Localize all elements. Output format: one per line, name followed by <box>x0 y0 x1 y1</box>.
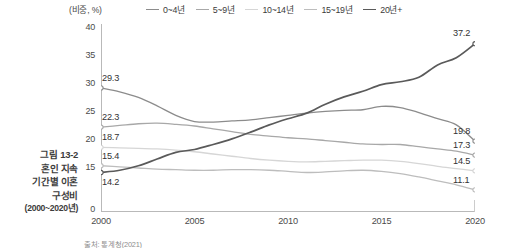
x-tick-label: 2015 <box>372 216 392 226</box>
line-chart-svg <box>101 24 475 212</box>
legend-label: 0~4년 <box>163 3 185 16</box>
y-tick-label: 15 <box>73 162 95 172</box>
legend-item-20년+[interactable]: 20년+ <box>363 3 402 16</box>
legend-line-icon <box>196 9 209 10</box>
y-tick-label: 0 <box>73 204 95 214</box>
figure-caption: 그림 13-2 혼인 지속 기간별 이혼 구성비 (2000~2020년) <box>0 148 78 216</box>
data-point-marker[interactable] <box>101 145 103 149</box>
figure-container: 그림 13-2 혼인 지속 기간별 이혼 구성비 (2000~2020년) (비… <box>0 0 511 248</box>
chart-legend: 0~4년5~9년10~14년15~19년20년+ <box>146 3 402 16</box>
data-point-marker[interactable] <box>101 170 103 174</box>
source-note: 출처: 통계청(2021) <box>84 238 142 248</box>
data-point-marker[interactable] <box>473 139 475 143</box>
legend-label: 5~9년 <box>213 3 235 16</box>
plot-area <box>101 24 475 212</box>
series-line-15~19년[interactable] <box>101 166 475 190</box>
caption-line-0: 그림 13-2 <box>0 148 78 162</box>
y-tick-label: 35 <box>73 50 95 60</box>
end-value-label-10~14년: 14.5 <box>453 156 470 166</box>
start-value-label-10~14년: 18.7 <box>102 132 119 142</box>
data-point-marker[interactable] <box>101 125 103 129</box>
legend-line-icon <box>146 9 159 10</box>
y-tick-label: 25 <box>73 106 95 116</box>
legend-label: 20년+ <box>380 3 402 16</box>
data-point-marker[interactable] <box>473 153 475 157</box>
start-value-label-20년+: 14.2 <box>102 177 119 187</box>
legend-item-5~9년[interactable]: 5~9년 <box>196 3 235 16</box>
start-value-label-5~9년: 22.3 <box>102 112 119 122</box>
legend-line-icon <box>245 9 258 10</box>
caption-period: (2000~2020년) <box>0 202 78 216</box>
data-point-marker[interactable] <box>101 86 103 90</box>
caption-line-1: 혼인 지속 <box>0 162 78 176</box>
legend-label: 15~19년 <box>321 3 352 16</box>
legend-label: 10~14년 <box>262 3 293 16</box>
y-axis-unit-label: (비중, %) <box>69 3 102 15</box>
data-point-marker[interactable] <box>473 169 475 173</box>
caption-line-3: 구성비 <box>0 189 78 203</box>
series-line-20년+[interactable] <box>101 44 475 173</box>
caption-line-2: 기간별 이혼 <box>0 175 78 189</box>
data-point-marker[interactable] <box>473 42 475 46</box>
end-value-label-15~19년: 11.1 <box>453 175 469 185</box>
legend-item-0~4년[interactable]: 0~4년 <box>146 3 185 16</box>
start-value-label-0~4년: 29.3 <box>102 73 119 83</box>
legend-item-15~19년[interactable]: 15~19년 <box>304 3 352 16</box>
end-value-label-0~4년: 19.8 <box>453 126 470 136</box>
start-value-label-15~19년: 15.4 <box>102 151 119 161</box>
series-line-5~9년[interactable] <box>101 123 475 155</box>
x-tick-label: 2005 <box>185 216 205 226</box>
y-tick-label: 40 <box>73 22 95 32</box>
legend-line-icon <box>363 9 376 10</box>
x-tick-label: 2020 <box>465 216 485 226</box>
end-value-label-5~9년: 17.3 <box>453 140 470 150</box>
data-point-marker[interactable] <box>101 164 103 168</box>
series-line-0~4년[interactable] <box>101 88 475 141</box>
x-tick-label: 2000 <box>91 216 111 226</box>
legend-line-icon <box>304 9 317 10</box>
data-point-marker[interactable] <box>473 188 475 192</box>
y-tick-label: 20 <box>73 134 95 144</box>
legend-item-10~14년[interactable]: 10~14년 <box>245 3 293 16</box>
y-tick-label: 30 <box>73 78 95 88</box>
end-value-label-20년+: 37.2 <box>453 28 470 38</box>
x-tick-label: 2010 <box>278 216 298 226</box>
